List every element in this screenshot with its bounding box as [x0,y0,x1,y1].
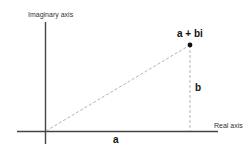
real-axis-label: Real axis [214,122,243,129]
complex-point [188,43,193,48]
point-label: a + bi [177,28,203,39]
modulus-dashed-line [46,45,190,131]
b-component-label: b [195,82,201,93]
a-component-label: a [113,134,119,145]
imaginary-axis-label: Imaginary axis [28,11,73,18]
complex-plane-diagram [0,0,248,148]
